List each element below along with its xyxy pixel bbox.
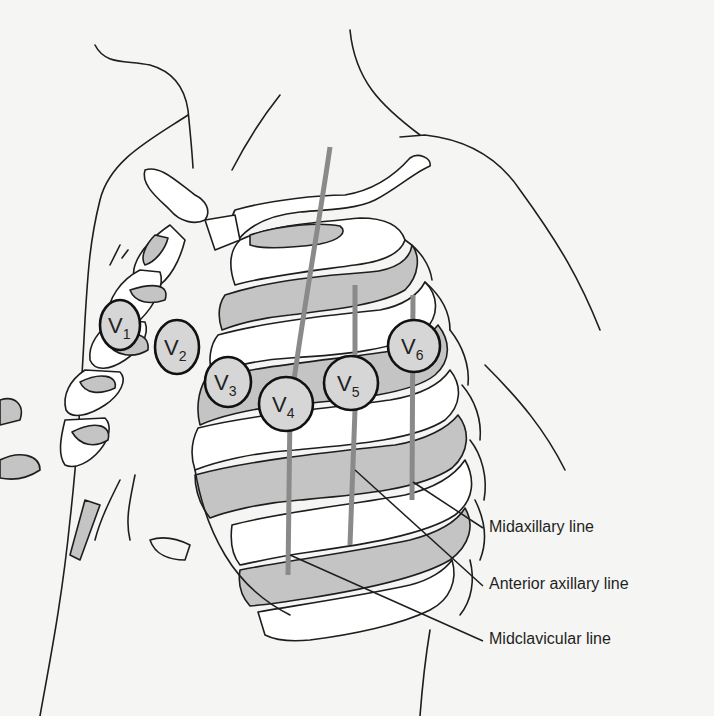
electrode-v4: V4 (259, 377, 313, 431)
ribs-left (0, 225, 185, 560)
electrode-v6: V6 (388, 320, 440, 372)
label-midclavicular-line: Midclavicular line (489, 630, 611, 648)
electrode-v3: V3 (205, 357, 251, 407)
label-midaxillary-line: Midaxillary line (489, 518, 594, 536)
ribs-right (192, 218, 471, 641)
label-anterior-axillary-line: Anterior axillary line (489, 575, 629, 593)
electrode-v2: V2 (155, 320, 199, 374)
chest-illustration: V1 V2 V3 V4 V5 V6 (0, 0, 714, 716)
electrode-v5: V5 (324, 356, 378, 410)
ecg-lead-placement-diagram: V1 V2 V3 V4 V5 V6 Midaxillary line Anter… (0, 0, 714, 716)
electrode-v1: V1 (100, 300, 140, 350)
